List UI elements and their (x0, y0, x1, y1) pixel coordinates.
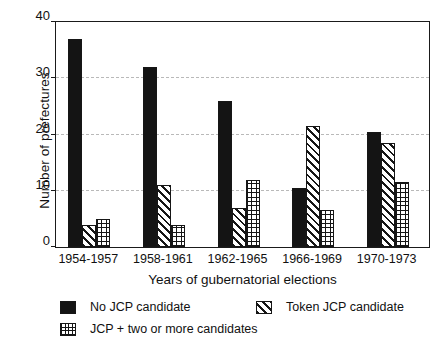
plot-area: 010203040 (55, 21, 430, 248)
bar (171, 225, 185, 248)
y-axis-tick-label: 0 (43, 233, 50, 248)
bar (143, 67, 157, 247)
legend-label: JCP + two or more candidates (90, 322, 258, 336)
x-axis-tick-label: 1966-1969 (282, 252, 342, 266)
y-axis-tick-mark (51, 190, 56, 191)
legend-entry-jcp-plus-two-or-more-candidates: JCP + two or more candidates (60, 322, 258, 336)
legend-label: No JCP candidate (90, 300, 191, 314)
bar (96, 219, 110, 247)
bar-group (218, 22, 260, 247)
bar-chart-figure: Number of prefectures 010203040 1954-195… (0, 0, 448, 354)
y-axis-tick-label: 20 (36, 120, 50, 135)
bar (320, 210, 334, 247)
y-axis-tick-mark (51, 21, 56, 22)
y-axis-tick-label: 10 (36, 176, 50, 191)
cross-swatch-icon (60, 323, 76, 336)
bar-group (143, 22, 185, 247)
bar (246, 180, 260, 248)
y-axis-tick-mark (51, 134, 56, 135)
x-axis-tick-label: 1962-1965 (208, 252, 268, 266)
hatch-swatch-icon (256, 301, 272, 314)
bar (218, 101, 232, 247)
legend-entry-token-jcp-candidate: Token JCP candidate (256, 300, 404, 314)
x-axis-title: Years of gubernatorial elections (55, 272, 430, 287)
bar (395, 182, 409, 247)
y-axis-tick-label: 30 (36, 64, 50, 79)
x-axis-tick-label: 1954-1957 (58, 252, 118, 266)
y-axis-tick-label: 40 (36, 8, 50, 23)
y-axis-tick-mark (51, 246, 56, 247)
bar (157, 185, 171, 247)
x-axis-tick-label: 1958-1961 (133, 252, 193, 266)
x-axis-tick-label: 1970-1973 (357, 252, 417, 266)
bar (367, 132, 381, 247)
bar (232, 208, 246, 247)
bar-group (367, 22, 409, 247)
bar (381, 143, 395, 247)
bar (306, 126, 320, 247)
bar (68, 39, 82, 247)
solid-swatch-icon (60, 301, 76, 314)
bar (292, 188, 306, 247)
legend-entry-no-jcp-candidate: No JCP candidate (60, 300, 191, 314)
bar-group (292, 22, 334, 247)
legend-label: Token JCP candidate (286, 300, 404, 314)
bar (82, 225, 96, 248)
chart-legend: No JCP candidate Token JCP candidate JCP… (60, 300, 440, 348)
bar-group (68, 22, 110, 247)
y-axis-tick-mark (51, 77, 56, 78)
